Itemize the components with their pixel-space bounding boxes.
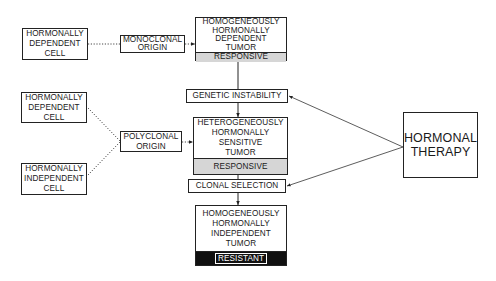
- hormonally-independent-cell: HORMONALLY INDEPENDENT CELL: [21, 163, 87, 195]
- origin-label-line: ORIGIN: [138, 44, 168, 53]
- tumor-label-line: TUMOR: [226, 44, 257, 53]
- tumor-label-line: HORMONALLY: [212, 219, 270, 229]
- cell-label-line: CELL: [45, 49, 66, 59]
- tumor-label-line: HORMONALLY: [212, 128, 270, 138]
- cell-label-line: CELL: [44, 184, 65, 194]
- genetic-instability-box: GENETIC INSTABILITY: [186, 89, 288, 103]
- clonal-selection-box: CLONAL SELECTION: [188, 179, 286, 193]
- tumor-description: HOMOGENEOUSLY HORMONALLY INDEPENDENT TUM…: [196, 206, 286, 251]
- responsive-status-band: RESPONSIVE: [196, 52, 286, 62]
- cell-label-line: INDEPENDENT: [24, 174, 84, 184]
- heterogeneously-sensitive-tumor-box: HETEROGENEOUSLY HORMONALLY SENSITIVE TUM…: [193, 117, 288, 175]
- tumor-label-line: SENSITIVE: [219, 138, 263, 148]
- cell-label-line: CELL: [44, 113, 65, 123]
- tumor-description: HOMOGENEOUSLY HORMONALLY DEPENDENT TUMOR: [196, 18, 286, 52]
- origin-label-line: POLYCLONAL: [124, 132, 179, 142]
- cell-label-line: DEPENDENT: [29, 39, 80, 49]
- polyclonal-origin-box: POLYCLONAL ORIGIN: [120, 131, 182, 152]
- status-label: RESISTANT: [215, 253, 267, 264]
- resistant-status-band: RESISTANT: [196, 251, 286, 265]
- hormonally-dependent-cell-mono: HORMONALLY DEPENDENT CELL: [22, 28, 88, 60]
- tumor-label-line: INDEPENDENT: [211, 229, 271, 239]
- homogeneously-dependent-tumor-box: HOMOGENEOUSLY HORMONALLY DEPENDENT TUMOR…: [195, 17, 287, 61]
- therapy-label-line: HORMONAL: [404, 131, 477, 145]
- tumor-label-line: HETEROGENEOUSLY: [198, 118, 284, 128]
- tumor-description: HETEROGENEOUSLY HORMONALLY SENSITIVE TUM…: [194, 118, 287, 158]
- cell-label-line: DEPENDENT: [28, 103, 79, 113]
- process-label: CLONAL SELECTION: [196, 181, 279, 191]
- homogeneously-independent-tumor-box: HOMOGENEOUSLY HORMONALLY INDEPENDENT TUM…: [195, 205, 287, 266]
- responsive-status-band: RESPONSIVE: [194, 158, 287, 174]
- status-label: RESPONSIVE: [214, 53, 268, 62]
- cell-label-line: HORMONALLY: [26, 29, 84, 39]
- origin-label-line: ORIGIN: [136, 142, 166, 152]
- cell-label-line: HORMONALLY: [25, 93, 83, 103]
- tumor-label-line: TUMOR: [226, 239, 257, 249]
- monoclonal-origin-box: MONOCLONAL ORIGIN: [120, 35, 185, 53]
- cell-label-line: HORMONALLY: [25, 164, 83, 174]
- therapy-label-line: THERAPY: [411, 145, 471, 159]
- hormonally-dependent-cell-poly: HORMONALLY DEPENDENT CELL: [21, 92, 87, 123]
- status-label: RESPONSIVE: [213, 162, 267, 172]
- tumor-label-line: HOMOGENEOUSLY: [202, 209, 279, 219]
- hormonal-therapy-box: HORMONAL THERAPY: [403, 112, 478, 178]
- process-label: GENETIC INSTABILITY: [192, 91, 281, 101]
- tumor-label-line: TUMOR: [225, 148, 256, 158]
